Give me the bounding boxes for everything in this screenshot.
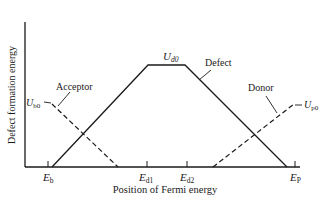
defect-energy-diagram: Defect formation energy Position of Ferm… <box>0 0 328 206</box>
acceptor-label: Acceptor <box>56 81 93 92</box>
tick-label-ed1: Ed1 <box>138 171 153 185</box>
donor-label: Donor <box>248 82 274 93</box>
tick-label-eb: Eb <box>42 171 54 185</box>
defect-label: Defect <box>205 57 232 68</box>
tick-label-ep: EP <box>289 171 301 185</box>
defect-leader <box>199 70 211 80</box>
donor-curve <box>213 104 294 167</box>
ub0-label: Ub0 <box>26 97 41 110</box>
acceptor-curve <box>52 104 118 167</box>
x-axis-label: Position of Fermi energy <box>113 184 218 195</box>
acceptor-leader <box>58 92 70 106</box>
tick-label-ed2: Ed2 <box>179 171 194 185</box>
up0-label: Up0 <box>304 99 319 112</box>
ub0-leader <box>44 102 51 103</box>
y-axis-label: Defect formation energy <box>6 46 17 144</box>
ud0-label: Ud0 <box>163 50 179 64</box>
donor-leader <box>266 96 277 113</box>
